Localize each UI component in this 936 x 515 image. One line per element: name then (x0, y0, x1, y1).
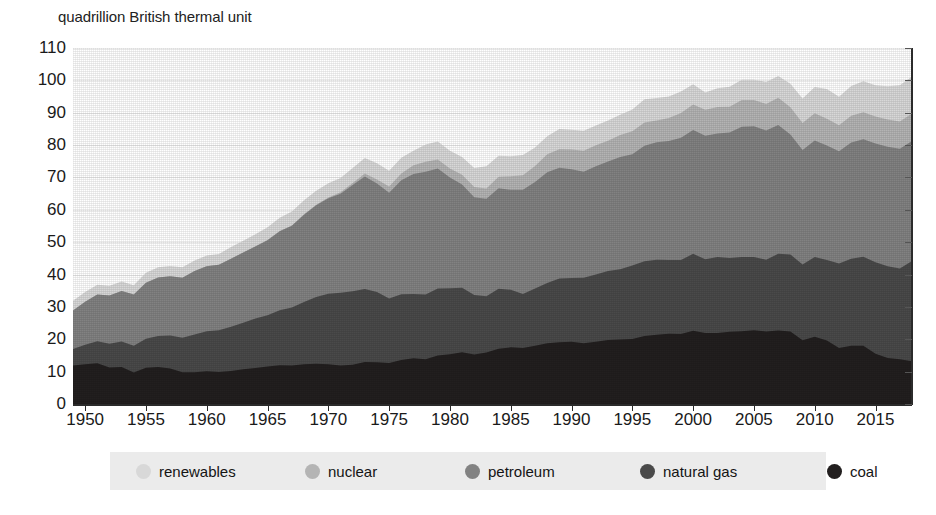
x-axis-tick-mark (876, 404, 877, 411)
y-axis-tick-label: 80 (14, 135, 66, 155)
x-axis-line (73, 404, 912, 406)
x-axis-tick-mark (207, 404, 208, 411)
legend-swatch-icon (136, 464, 151, 479)
x-axis-tick-label: 2005 (735, 410, 773, 430)
x-axis-tick-mark (268, 404, 269, 411)
legend-item-petroleum[interactable]: petroleum (465, 452, 555, 490)
x-axis-tick-mark (815, 404, 816, 411)
right-axis-tick (905, 372, 912, 373)
x-axis-tick-mark (328, 404, 329, 411)
x-axis-tick-label: 1990 (553, 410, 591, 430)
x-axis-tick-label: 1970 (309, 410, 347, 430)
right-axis-tick (905, 80, 912, 81)
legend-label: petroleum (488, 463, 555, 480)
x-axis-tick-label: 1955 (127, 410, 165, 430)
right-axis-tick (905, 177, 912, 178)
x-axis-tick-label: 1965 (249, 410, 287, 430)
right-axis-tick (905, 275, 912, 276)
stacked-area-chart: quadrillion British thermal unit 1101009… (0, 0, 936, 515)
x-axis-tick-label: 2015 (857, 410, 895, 430)
y-axis-tick-label: 50 (14, 232, 66, 252)
x-axis-tick-mark (511, 404, 512, 411)
legend-item-renewables[interactable]: renewables (136, 452, 236, 490)
legend-swatch-icon (305, 464, 320, 479)
legend-label: natural gas (663, 463, 737, 480)
x-axis-tick-label: 1975 (370, 410, 408, 430)
x-axis-tick-label: 1995 (613, 410, 651, 430)
right-axis-tick (905, 339, 912, 340)
x-axis-tick-label: 2000 (674, 410, 712, 430)
x-axis-tick-mark (146, 404, 147, 411)
y-axis-tick-label: 70 (14, 167, 66, 187)
x-axis-tick-mark (85, 404, 86, 411)
x-axis-tick-mark (693, 404, 694, 411)
legend-label: renewables (159, 463, 236, 480)
x-axis-tick-mark (754, 404, 755, 411)
y-axis-tick-label: 0 (14, 394, 66, 414)
x-axis-tick-mark (632, 404, 633, 411)
y-axis-tick-labels: 1101009080706050403020100 (0, 0, 66, 515)
x-axis-tick-mark (389, 404, 390, 411)
right-axis-tick (905, 404, 912, 405)
y-axis-tick-label: 110 (14, 38, 66, 58)
legend-label: nuclear (328, 463, 377, 480)
legend-swatch-icon (827, 464, 842, 479)
chart-axis-title: quadrillion British thermal unit (58, 8, 252, 25)
right-axis-tick (905, 210, 912, 211)
legend-swatch-icon (640, 464, 655, 479)
right-axis-tick (905, 242, 912, 243)
x-axis-tick-label: 1980 (431, 410, 469, 430)
x-axis-tick-label: 1960 (188, 410, 226, 430)
y-axis-tick-label: 90 (14, 103, 66, 123)
right-axis-line (911, 48, 913, 405)
right-axis-tick (905, 113, 912, 114)
y-axis-tick-label: 40 (14, 265, 66, 285)
right-axis-tick (905, 307, 912, 308)
x-axis-tick-mark (572, 404, 573, 411)
legend-item-natural-gas[interactable]: natural gas (640, 452, 737, 490)
right-axis-tick (905, 145, 912, 146)
legend-label: coal (850, 463, 878, 480)
y-axis-tick-label: 20 (14, 329, 66, 349)
x-axis-tick-label: 2010 (796, 410, 834, 430)
y-axis-tick-label: 10 (14, 362, 66, 382)
legend-item-nuclear[interactable]: nuclear (305, 452, 377, 490)
plot-area (73, 48, 912, 404)
legend-swatch-icon (465, 464, 480, 479)
y-axis-tick-label: 100 (14, 70, 66, 90)
x-axis-tick-label: 1985 (492, 410, 530, 430)
area-series-group (73, 48, 912, 404)
legend-item-coal[interactable]: coal (827, 452, 878, 490)
y-axis-tick-label: 60 (14, 200, 66, 220)
x-axis-tick-mark (450, 404, 451, 411)
x-axis-tick-label: 1950 (66, 410, 104, 430)
y-axis-tick-label: 30 (14, 297, 66, 317)
right-axis-tick (905, 48, 912, 49)
chart-legend: renewablesnuclearpetroleumnatural gascoa… (110, 452, 826, 490)
